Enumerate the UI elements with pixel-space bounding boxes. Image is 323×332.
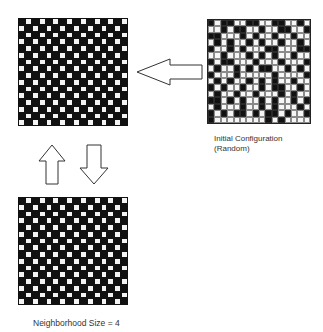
grid-cell bbox=[101, 278, 108, 285]
grid-cell bbox=[73, 298, 80, 305]
grid-cell bbox=[25, 59, 32, 66]
grid-cell bbox=[73, 59, 80, 66]
grid-cell bbox=[66, 244, 73, 251]
grid-cell bbox=[94, 52, 101, 59]
grid-cell bbox=[114, 25, 121, 32]
grid-cell bbox=[46, 265, 53, 272]
grid-cell bbox=[25, 298, 32, 305]
grid-cell bbox=[101, 99, 108, 106]
grid-cell bbox=[121, 278, 128, 285]
grid-cell bbox=[114, 204, 121, 211]
grid-cell bbox=[32, 271, 39, 278]
grid-cell bbox=[46, 99, 53, 106]
grid-cell bbox=[25, 18, 32, 25]
grid-cell bbox=[25, 25, 32, 32]
grid-cell bbox=[73, 86, 80, 93]
grid-cell bbox=[73, 79, 80, 86]
grid-cell bbox=[94, 278, 101, 285]
grid-cell bbox=[46, 72, 53, 79]
grid-cell bbox=[80, 231, 87, 238]
grid-cell bbox=[66, 119, 73, 126]
grid-cell bbox=[80, 244, 87, 251]
grid-cell bbox=[73, 72, 80, 79]
grid-cell bbox=[87, 197, 94, 204]
grid-cell bbox=[114, 265, 121, 272]
grid-cell bbox=[94, 79, 101, 86]
grid-cell bbox=[101, 113, 108, 120]
grid-cell bbox=[87, 292, 94, 299]
grid-cell bbox=[18, 59, 25, 66]
grid-cell bbox=[114, 238, 121, 245]
grid-cell bbox=[18, 224, 25, 231]
grid-cell bbox=[66, 278, 73, 285]
grid-cell bbox=[52, 285, 59, 292]
grid-cell bbox=[66, 238, 73, 245]
grid-cell bbox=[73, 271, 80, 278]
grid-cell bbox=[73, 119, 80, 126]
grid-cell bbox=[114, 18, 121, 25]
grid-cell bbox=[39, 238, 46, 245]
grid-cell bbox=[46, 231, 53, 238]
grid-cell bbox=[87, 217, 94, 224]
grid-cell bbox=[39, 18, 46, 25]
grid-cell bbox=[32, 285, 39, 292]
grid-cell bbox=[121, 45, 128, 52]
grid-cell bbox=[66, 231, 73, 238]
grid-cell bbox=[73, 52, 80, 59]
grid-cell bbox=[73, 65, 80, 72]
grid-cell bbox=[94, 25, 101, 32]
grid-cell bbox=[18, 79, 25, 86]
grid-cell bbox=[52, 65, 59, 72]
grid-cell bbox=[66, 271, 73, 278]
grid-cell bbox=[87, 113, 94, 120]
grid-cell bbox=[18, 197, 25, 204]
grid-cell bbox=[25, 217, 32, 224]
grid-cell bbox=[87, 38, 94, 45]
grid-cell bbox=[80, 25, 87, 32]
grid-cell bbox=[80, 197, 87, 204]
grid-cell bbox=[32, 211, 39, 218]
grid-cell bbox=[59, 217, 66, 224]
grid-cell bbox=[39, 38, 46, 45]
grid-cell bbox=[18, 86, 25, 93]
grid-cell bbox=[18, 52, 25, 59]
grid-cell bbox=[59, 265, 66, 272]
grid-cell bbox=[46, 292, 53, 299]
grid-cell bbox=[18, 25, 25, 32]
grid-cell bbox=[101, 32, 108, 39]
grid-cell bbox=[18, 217, 25, 224]
grid-cell bbox=[101, 59, 108, 66]
grid-cell bbox=[32, 265, 39, 272]
grid-cell bbox=[107, 45, 114, 52]
grid-cell bbox=[39, 197, 46, 204]
grid-cell bbox=[46, 18, 53, 25]
grid-cell bbox=[121, 99, 128, 106]
grid-cell bbox=[114, 106, 121, 113]
grid-cell bbox=[114, 72, 121, 79]
grid-cell bbox=[87, 204, 94, 211]
grid-cell bbox=[121, 204, 128, 211]
grid-cell bbox=[46, 238, 53, 245]
grid-cell bbox=[39, 65, 46, 72]
grid-cell bbox=[18, 18, 25, 25]
grid-cell bbox=[121, 211, 128, 218]
grid-cell bbox=[59, 65, 66, 72]
grid-cell bbox=[107, 79, 114, 86]
grid-cell bbox=[52, 92, 59, 99]
grid-cell bbox=[87, 52, 94, 59]
grid-cell bbox=[46, 204, 53, 211]
grid-cell bbox=[39, 52, 46, 59]
grid-cell bbox=[87, 65, 94, 72]
grid-cell bbox=[18, 231, 25, 238]
grid-cell bbox=[94, 32, 101, 39]
grid-cell bbox=[32, 238, 39, 245]
grid-cell bbox=[87, 45, 94, 52]
grid-cell bbox=[94, 231, 101, 238]
grid-cell bbox=[32, 106, 39, 113]
grid-cell bbox=[73, 285, 80, 292]
grid-cell bbox=[107, 217, 114, 224]
grid-cell bbox=[80, 298, 87, 305]
grid-cell bbox=[121, 25, 128, 32]
grid-cell bbox=[25, 258, 32, 265]
grid-cell bbox=[39, 278, 46, 285]
